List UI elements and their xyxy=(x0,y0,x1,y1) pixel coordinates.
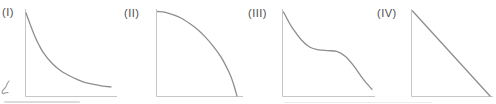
scan-artifact-line xyxy=(284,102,432,103)
curve-(I) xyxy=(26,13,111,87)
panel-label-1: (I) xyxy=(2,6,14,18)
panel-label-4: (IV) xyxy=(377,7,397,19)
axes-(IV) xyxy=(412,9,494,97)
curve-(III) xyxy=(284,12,373,89)
plot-panel-1 xyxy=(25,9,117,98)
curve-(IV) xyxy=(413,11,491,96)
axes-(II) xyxy=(157,9,244,97)
plot-panel-3 xyxy=(282,9,375,98)
panel-label-3: (III) xyxy=(248,7,267,19)
plot-panel-4 xyxy=(411,9,493,98)
axes-(I) xyxy=(26,9,118,97)
plot-panel-2 xyxy=(156,9,243,98)
handwriting-fragment-icon xyxy=(0,78,12,98)
curve-(II) xyxy=(158,12,238,97)
graphs-strip: (I) (II) (III) (IV) xyxy=(0,0,496,104)
scan-artifact-line xyxy=(4,101,80,103)
panel-label-2: (II) xyxy=(124,7,139,19)
axes-(III) xyxy=(283,9,376,97)
